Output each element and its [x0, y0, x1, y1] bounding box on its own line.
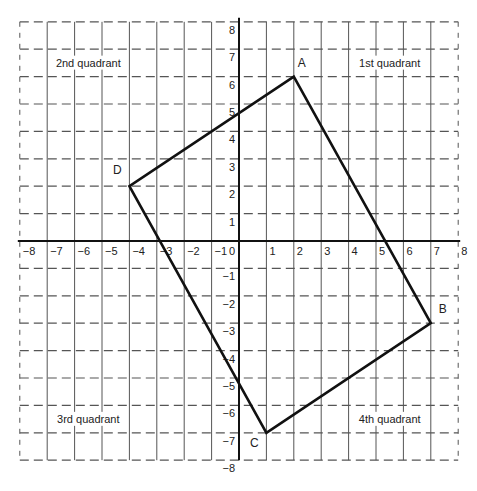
y-tick-label: −6: [222, 407, 235, 419]
y-tick-label: −1: [222, 270, 235, 282]
quadrant-label: 1st quadrant: [359, 57, 420, 69]
vertex-label-b: B: [439, 302, 447, 316]
vertex-label-d: D: [113, 163, 122, 177]
y-tick-label: 6: [229, 79, 235, 91]
quadrant-label: 4th quadrant: [359, 413, 421, 425]
x-tick-label: 4: [352, 245, 358, 257]
x-tick-label: −7: [50, 245, 63, 257]
vertex-label-c: C: [250, 436, 259, 450]
y-tick-label: 1: [229, 216, 235, 228]
x-tick-label: −8: [23, 245, 36, 257]
quadrant-label: 3rd quadrant: [57, 413, 119, 425]
y-tick-label: −3: [222, 325, 235, 337]
origin-label: 0: [229, 245, 235, 257]
quadrant-label: 2nd quadrant: [56, 57, 121, 69]
y-tick-label: −2: [222, 298, 235, 310]
x-tick-label: −6: [78, 245, 91, 257]
y-tick-label: 4: [229, 133, 235, 145]
x-tick-label: 5: [379, 245, 385, 257]
y-tick-label: 8: [229, 24, 235, 36]
x-tick-label: 2: [297, 245, 303, 257]
axes: [18, 18, 460, 460]
y-tick-label: 7: [229, 51, 235, 63]
x-tick-label: 6: [406, 245, 412, 257]
x-tick-label: 7: [434, 245, 440, 257]
polygon-abcd: [129, 77, 430, 433]
x-tick-label: 1: [269, 245, 275, 257]
x-tick-label: 8: [461, 245, 467, 257]
coordinate-plane: −8−7−6−5−4−3−2−1123456780 87654321−1−2−3…: [0, 0, 477, 491]
x-tick-label: −4: [132, 245, 145, 257]
quadrilateral-abcd: [129, 77, 430, 433]
y-tick-label: 3: [229, 161, 235, 173]
x-tick-label: 3: [324, 245, 330, 257]
coordinate-plane-diagram: −8−7−6−5−4−3−2−1123456780 87654321−1−2−3…: [0, 0, 477, 491]
y-tick-label: 2: [229, 188, 235, 200]
vertex-label-a: A: [298, 56, 306, 70]
y-tick-label: −5: [222, 380, 235, 392]
y-tick-label: −7: [222, 435, 235, 447]
x-axis-tick-labels: −8−7−6−5−4−3−2−1123456780: [23, 245, 468, 257]
y-tick-label: −8: [222, 462, 235, 474]
x-tick-label: −5: [105, 245, 118, 257]
x-tick-label: −2: [187, 245, 200, 257]
x-tick-label: −1: [215, 245, 228, 257]
